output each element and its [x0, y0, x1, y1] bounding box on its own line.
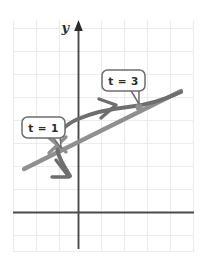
parametric-curve-layer — [48, 92, 181, 177]
grid-horizontal-lines — [13, 29, 194, 252]
t3-bubble-label: t = 3 — [108, 75, 138, 87]
figure-canvas: y t = 1 — [0, 0, 201, 267]
t1-bubble-label: t = 1 — [28, 122, 58, 134]
y-axis-label: y — [60, 20, 70, 35]
annotation-bubble-t3[interactable]: t = 3 — [102, 70, 145, 104]
y-axis-arrowhead — [74, 20, 83, 31]
parametric-curve — [57, 92, 181, 176]
parametric-curve-figure: y t = 1 — [0, 0, 201, 267]
